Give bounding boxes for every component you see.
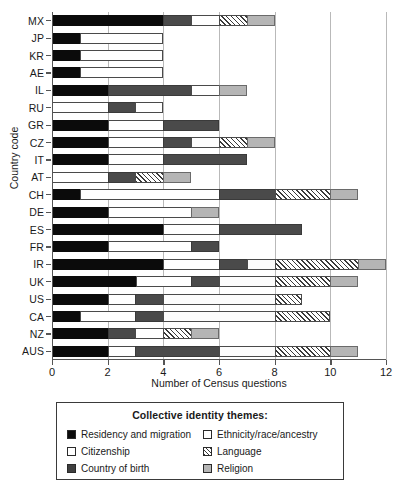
y-tick-mark-AUS: [46, 351, 51, 352]
y-tick-label-IL: IL: [35, 84, 44, 96]
gridline-x-12: [386, 12, 387, 360]
y-tick-mark-IT: [46, 159, 51, 160]
y-tick-label-AUS: AUS: [22, 345, 44, 357]
y-tick-label-DE: DE: [29, 206, 44, 218]
y-tick-label-RU: RU: [29, 102, 44, 114]
y-tick-label-US: US: [29, 293, 44, 305]
y-tick-mark-US: [46, 299, 51, 300]
y-tick-mark-KR: [46, 55, 51, 56]
x-tick-mark-4: [163, 360, 164, 365]
y-tick-label-FR: FR: [30, 241, 44, 253]
y-tick-label-CZ: CZ: [30, 137, 44, 149]
y-tick-mark-JP: [46, 38, 51, 39]
y-tick-mark-ES: [46, 229, 51, 230]
y-tick-mark-CZ: [46, 142, 51, 143]
legend-item-label: Religion: [217, 463, 253, 474]
legend-items: Residency and migrationEthnicity/race/an…: [67, 426, 333, 477]
y-tick-label-GR: GR: [28, 119, 44, 131]
y-tick-label-MX: MX: [28, 15, 44, 27]
y-tick-mark-NZ: [46, 333, 51, 334]
y-tick-label-ES: ES: [30, 224, 44, 236]
legend-item-label: Country of birth: [81, 463, 149, 474]
y-tick-mark-IR: [46, 264, 51, 265]
x-tick-mark-0: [52, 360, 53, 365]
y-tick-mark-RU: [46, 107, 51, 108]
y-tick-label-AT: AT: [31, 171, 44, 183]
x-tick-mark-8: [275, 360, 276, 365]
y-tick-mark-FR: [46, 246, 51, 247]
legend-swatch-religion-icon: [203, 464, 212, 473]
legend: Collective identity themes: Residency an…: [56, 402, 344, 480]
legend-swatch-language-icon: [203, 447, 212, 456]
y-tick-mark-UK: [46, 281, 51, 282]
y-tick-label-JP: JP: [32, 32, 44, 44]
legend-item-residency[interactable]: Residency and migration: [67, 426, 197, 443]
y-tick-label-UK: UK: [29, 276, 44, 288]
legend-title: Collective identity themes:: [67, 409, 333, 421]
y-tick-mark-MX: [46, 20, 51, 21]
legend-item-birth[interactable]: Country of birth: [67, 460, 197, 477]
y-tick-mark-AE: [46, 72, 51, 73]
x-tick-mark-10: [330, 360, 331, 365]
legend-swatch-citizenship-icon: [67, 447, 76, 456]
y-tick-mark-AT: [46, 177, 51, 178]
legend-item-label: Citizenship: [81, 446, 130, 457]
legend-swatch-birth-icon: [67, 464, 76, 473]
y-tick-mark-DE: [46, 212, 51, 213]
legend-item-label: Residency and migration: [81, 429, 191, 440]
x-tick-mark-2: [108, 360, 109, 365]
y-tick-label-AE: AE: [30, 67, 44, 79]
legend-swatch-residency-icon: [67, 430, 76, 439]
y-tick-label-CA: CA: [29, 311, 44, 323]
y-tick-label-IR: IR: [33, 258, 44, 270]
y-axis-tick-labels: MXJPKRAEILRUGRCZITATCHDEESFRIRUKUSCANZAU…: [0, 12, 50, 360]
legend-item-label: Ethnicity/race/ancestry: [217, 429, 318, 440]
plot-area: [52, 12, 386, 360]
x-tick-mark-12: [386, 360, 387, 365]
x-tick-mark-6: [219, 360, 220, 365]
x-axis-title: Number of Census questions: [52, 377, 386, 389]
legend-item-citizenship[interactable]: Citizenship: [67, 443, 197, 460]
census-questions-stacked-bar-chart: Country code MXJPKRAEILRUGRCZITATCHDEESF…: [0, 0, 400, 490]
y-tick-mark-IL: [46, 90, 51, 91]
y-tick-label-KR: KR: [29, 50, 44, 62]
y-tick-label-CH: CH: [29, 189, 44, 201]
y-tick-label-IT: IT: [34, 154, 44, 166]
legend-item-ethnicity[interactable]: Ethnicity/race/ancestry: [203, 426, 333, 443]
axis-frame: [52, 12, 386, 360]
y-tick-mark-GR: [46, 125, 51, 126]
legend-item-label: Language: [217, 446, 262, 457]
legend-swatch-ethnicity-icon: [203, 430, 212, 439]
legend-item-religion[interactable]: Religion: [203, 460, 333, 477]
y-tick-mark-CH: [46, 194, 51, 195]
legend-item-language[interactable]: Language: [203, 443, 333, 460]
y-tick-mark-CA: [46, 316, 51, 317]
y-tick-label-NZ: NZ: [30, 328, 44, 340]
